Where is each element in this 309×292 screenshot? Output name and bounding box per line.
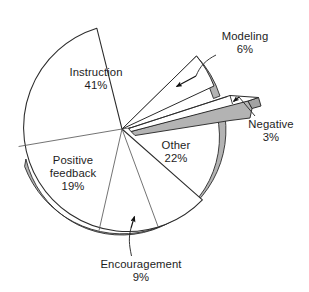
slice-label-modeling-percent: 6% (204, 43, 286, 56)
slice-label-instruction: Instruction 41% (48, 66, 144, 92)
slice-label-encouragement-percent: 9% (76, 271, 206, 284)
slice-label-positive-feedback-percent: 19% (28, 180, 118, 193)
slice-label-positive-feedback: Positive feedback 19% (28, 154, 118, 194)
slice-label-other: Other 22% (142, 139, 210, 165)
slice-label-instruction-name: Instruction (48, 66, 144, 79)
slice-instruction (24, 28, 203, 231)
slice-label-negative-percent: 3% (236, 131, 306, 144)
slice-label-other-percent: 22% (142, 152, 210, 165)
slice-label-encouragement-name: Encouragement (76, 258, 206, 271)
slice-label-encouragement: Encouragement 9% (76, 258, 206, 284)
slice-label-negative-name: Negative (236, 118, 306, 131)
slice-label-modeling-name: Modeling (204, 30, 286, 43)
slice-label-negative: Negative 3% (236, 118, 306, 144)
pie-chart-figure: Instruction 41% Positive feedback 19% Ot… (0, 0, 309, 292)
slice-label-instruction-percent: 41% (48, 79, 144, 92)
slice-label-modeling: Modeling 6% (204, 30, 286, 56)
leader-line-encouragement (129, 228, 131, 256)
slice-label-other-name: Other (142, 139, 210, 152)
slice-label-positive-feedback-name-line2: feedback (28, 167, 118, 180)
slice-label-positive-feedback-name-line1: Positive (28, 154, 118, 167)
